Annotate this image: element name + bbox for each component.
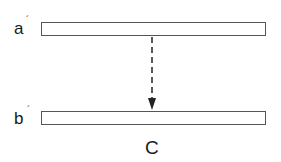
- dashed-arrow-down-icon: [0, 0, 281, 162]
- panel-label: C: [145, 138, 159, 157]
